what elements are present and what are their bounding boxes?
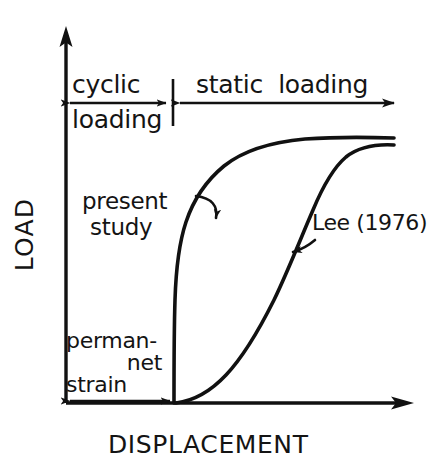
permanent-strain-label-line2: net — [66, 352, 162, 374]
present-study-label-line2: study — [90, 216, 152, 239]
figure-root: cyclic loading static loading present st… — [0, 0, 444, 472]
static-loading-label: static loading — [196, 72, 368, 97]
lee-1976-label: Lee (1976) — [312, 212, 427, 234]
curve-present-study — [174, 137, 394, 403]
permanent-strain-label-line1: perman- — [66, 330, 157, 352]
cyclic-loading-label-line2: loading — [72, 107, 162, 132]
x-axis-label: DISPLACEMENT — [108, 432, 309, 457]
permanent-strain-label-line3: strain — [66, 374, 127, 396]
x-axis — [66, 397, 414, 410]
present-study-label-line1: present — [82, 190, 167, 213]
cyclic-loading-label-line1: cyclic — [72, 72, 140, 97]
y-axis-label: LOAD — [12, 195, 37, 275]
present-study-leader-arrow — [196, 196, 216, 218]
